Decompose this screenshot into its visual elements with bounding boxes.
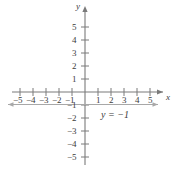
y-tick-label-4: 4: [72, 36, 77, 45]
y-tick-label--2: −2: [67, 114, 77, 123]
line-equation-label: y = −1: [101, 110, 129, 120]
y-axis-label: y: [76, 2, 80, 11]
y-tick-label--4: −4: [67, 140, 77, 149]
x-axis-arrow-right-icon: [157, 89, 163, 94]
y-tick-label-2: 2: [72, 62, 77, 71]
x-tick-label-1: 1: [96, 96, 101, 105]
x-tick-label--3: −3: [39, 96, 49, 105]
line-arrow-right-icon: [153, 102, 159, 107]
y-axis-arrow-up-icon: [82, 6, 87, 12]
x-tick-label-5: 5: [148, 96, 153, 105]
x-tick-label--4: −4: [26, 96, 36, 105]
x-tick-label-2: 2: [109, 96, 114, 105]
x-tick-label--2: −2: [52, 96, 62, 105]
coordinate-plane-svg: [0, 0, 177, 172]
graph-figure: −5 −4 −3 −2 −1 1 2 3 4 5 5 4 3 2 1 −1 −2…: [0, 0, 177, 172]
x-tick-label-4: 4: [135, 96, 140, 105]
y-tick-label-3: 3: [72, 49, 77, 58]
y-tick-label--3: −3: [67, 127, 77, 136]
y-tick-label--1: −1: [67, 101, 77, 110]
x-axis-label: x: [166, 93, 170, 102]
y-tick-label-5: 5: [72, 23, 77, 32]
x-tick-label--5: −5: [13, 96, 23, 105]
y-tick-label-1: 1: [72, 75, 77, 84]
y-tick-label--5: −5: [67, 153, 77, 162]
x-tick-label-3: 3: [122, 96, 127, 105]
